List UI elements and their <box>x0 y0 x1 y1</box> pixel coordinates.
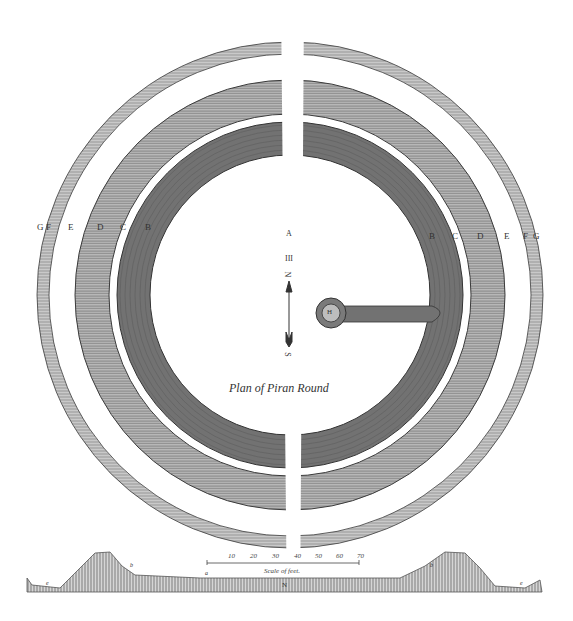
label-left-f: F <box>46 222 52 232</box>
scale-title: Scale of feet. <box>264 567 300 575</box>
label-right-g: G <box>533 231 540 241</box>
plate-title: Plan of Piran Round <box>229 381 329 396</box>
piran-round-plan <box>0 0 573 621</box>
scale-bar <box>207 560 359 565</box>
scale-tick-20: 20 <box>250 552 257 560</box>
label-marker: III <box>285 254 293 263</box>
scale-tick-70: 70 <box>357 552 364 560</box>
outer-thin-ring <box>37 42 543 548</box>
section-right-b: b <box>430 562 434 568</box>
label-north: N <box>283 272 292 278</box>
scale-tick-60: 60 <box>336 552 343 560</box>
scale-tick-40: 40 <box>294 552 301 560</box>
scale-tick-50: 50 <box>315 552 322 560</box>
section-a: a <box>205 570 209 576</box>
label-left-d: D <box>97 222 104 232</box>
label-right-d: D <box>477 231 484 241</box>
label-left-b: B <box>145 222 152 232</box>
label-right-c: C <box>452 231 459 241</box>
section-right-e: e <box>520 580 523 586</box>
section-left-b: b <box>130 562 134 568</box>
section-left-e: e <box>46 580 49 586</box>
label-h: H <box>327 308 332 316</box>
label-left-c: C <box>120 222 127 232</box>
label-right-f: F <box>523 231 529 241</box>
label-a: A <box>286 229 292 238</box>
label-right-e: E <box>504 231 510 241</box>
scale-tick-30: 30 <box>272 552 279 560</box>
inner-dark-ring <box>117 122 463 468</box>
label-right-b: B <box>429 231 436 241</box>
compass-arrow <box>286 281 292 347</box>
central-pit <box>316 298 440 328</box>
label-left-e: E <box>68 222 74 232</box>
label-south: S <box>283 352 292 356</box>
label-left-g: G <box>37 222 44 232</box>
scale-tick-10: 10 <box>228 552 235 560</box>
section-center-n: N <box>282 581 288 589</box>
